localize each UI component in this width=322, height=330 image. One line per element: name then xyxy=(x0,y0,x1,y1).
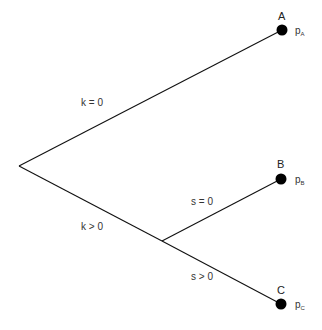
prob-c: pC xyxy=(295,300,305,311)
edge-junction-to-b xyxy=(162,179,281,241)
edge-label-s-gt-0: s > 0 xyxy=(191,272,213,282)
node-a-dot xyxy=(277,25,288,36)
prob-a: pA xyxy=(295,26,305,37)
node-a-label: A xyxy=(278,11,285,22)
edge-root-to-a xyxy=(19,30,282,166)
node-c-dot xyxy=(276,299,287,310)
tree-canvas xyxy=(0,0,322,330)
prob-b: pB xyxy=(295,175,305,186)
node-c-label: C xyxy=(277,285,285,296)
edge-label-s-eq-0: s = 0 xyxy=(191,197,213,207)
edge-junction-to-c xyxy=(162,241,281,304)
edge-label-k-gt-0: k > 0 xyxy=(81,222,103,232)
edge-label-k-eq-0: k = 0 xyxy=(81,98,103,108)
node-b-dot xyxy=(276,174,287,185)
node-b-label: B xyxy=(277,159,284,170)
